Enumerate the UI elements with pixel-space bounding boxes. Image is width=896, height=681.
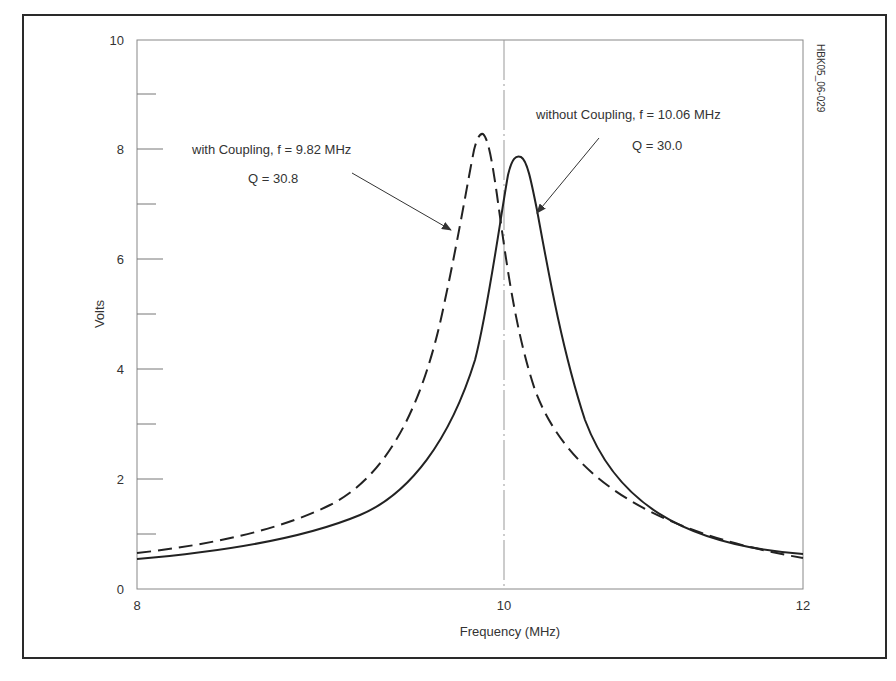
annotation-without-coupling: without Coupling, f = 10.06 MHz	[535, 107, 721, 122]
annotation-with-coupling: with Coupling, f = 9.82 MHz	[191, 142, 351, 157]
y-tick-0: 0	[117, 582, 124, 597]
x-tick-labels: 8 10 12	[133, 598, 810, 613]
arrow-with-coupling	[352, 173, 451, 230]
y-axis-title: Volts	[92, 299, 107, 328]
y-tick-labels: 0 2 4 6 8 10	[110, 33, 124, 597]
annotation-with-coupling-q: Q = 30.8	[248, 171, 298, 186]
curve-without-coupling	[137, 156, 803, 559]
y-axis-ticks	[137, 94, 163, 534]
x-tick-10: 10	[497, 598, 511, 613]
y-tick-4: 4	[117, 362, 124, 377]
resonance-chart: 0 2 4 6 8 10 8 10 12 Frequency (MHz) Vol…	[0, 0, 896, 681]
curve-with-coupling	[137, 134, 803, 558]
y-tick-6: 6	[117, 252, 124, 267]
y-tick-8: 8	[117, 142, 124, 157]
figure-id: HBK05_06-029	[815, 44, 826, 113]
x-tick-12: 12	[796, 598, 810, 613]
annotation-without-coupling-q: Q = 30.0	[632, 138, 682, 153]
y-tick-10: 10	[110, 33, 124, 48]
x-axis-title: Frequency (MHz)	[460, 624, 560, 639]
arrow-without-coupling	[537, 138, 599, 213]
x-tick-8: 8	[133, 598, 140, 613]
plot-area	[137, 40, 803, 589]
y-tick-2: 2	[117, 472, 124, 487]
